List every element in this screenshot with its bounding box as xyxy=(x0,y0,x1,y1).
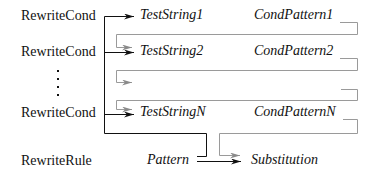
feedback-loop-ellipsis xyxy=(117,90,358,110)
connector-lines xyxy=(0,0,371,180)
feedback-loop-to-substitution xyxy=(220,120,358,156)
feedback-loop-2 xyxy=(117,59,358,83)
main-bus-line xyxy=(105,17,207,157)
feedback-loop-1 xyxy=(117,23,358,48)
